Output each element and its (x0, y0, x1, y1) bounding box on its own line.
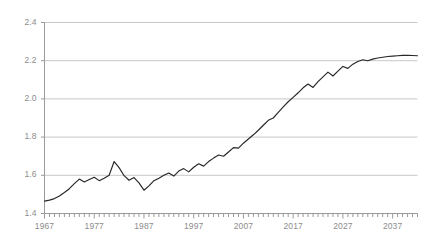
y-axis-label: 2.4 (7, 17, 37, 27)
x-axis-label: 2037 (373, 221, 413, 231)
line-chart: 2.42.22.01.81.61.41967197719871997200720… (0, 0, 431, 246)
data-line-series-1 (45, 55, 418, 201)
x-axis-label: 2027 (323, 221, 363, 231)
x-axis-label: 2007 (223, 221, 263, 231)
chart-plot-area (0, 0, 431, 246)
y-axis-label: 1.4 (7, 208, 37, 218)
y-axis-label: 1.6 (7, 169, 37, 179)
x-axis-label: 1997 (174, 221, 214, 231)
x-axis-label: 1987 (124, 221, 164, 231)
x-axis-label: 1967 (25, 221, 65, 231)
y-axis-label: 2.2 (7, 55, 37, 65)
x-axis-label: 1977 (74, 221, 114, 231)
x-axis-label: 2017 (273, 221, 313, 231)
y-axis-label: 1.8 (7, 131, 37, 141)
y-axis-label: 2.0 (7, 93, 37, 103)
